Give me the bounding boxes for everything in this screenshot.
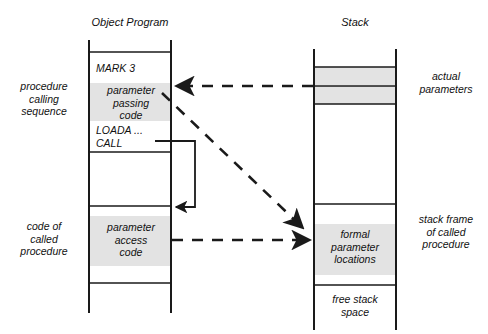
- call-control-flow-arrow: [155, 141, 195, 207]
- shade-actual-parameter-slot-1: [314, 67, 396, 85]
- side-label-procedure-calling-sequence: procedure calling sequence: [2, 80, 86, 118]
- figure-canvas: Object Program Stack: [0, 0, 488, 334]
- diagram-vectors: [0, 0, 488, 334]
- shade-formal-parameter-locations: [314, 224, 396, 275]
- shade-actual-parameter-slot-2: [314, 86, 396, 104]
- shade-parameter-passing-code: [89, 83, 171, 121]
- side-label-stack-frame-of-called-procedure: stack frame of called procedure: [404, 213, 488, 251]
- shade-parameter-access-code: [89, 216, 171, 266]
- side-label-code-of-called-procedure: code of called procedure: [2, 220, 86, 258]
- side-label-actual-parameters: actual parameters: [404, 70, 488, 95]
